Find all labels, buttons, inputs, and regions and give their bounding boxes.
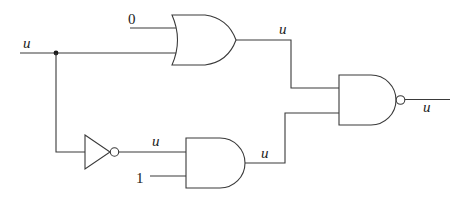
label-input-u: u [23, 35, 31, 51]
or-output-wire [236, 40, 339, 88]
not-bubble [110, 148, 118, 156]
and-output-wire [245, 113, 339, 163]
label-const-1: 1 [136, 170, 144, 186]
and-gate [186, 138, 245, 188]
logic-circuit-diagram: u 0 u u 1 u u [0, 0, 473, 203]
not-gate [85, 135, 110, 169]
nand-gate [339, 75, 396, 125]
or-gate [172, 15, 236, 65]
nand-bubble [396, 96, 405, 105]
circuit-svg: u 0 u u 1 u u [0, 0, 473, 203]
branch-to-inverter-wire [56, 53, 85, 152]
label-nand-out-u: u [423, 99, 431, 115]
label-and-out-u: u [261, 145, 269, 161]
label-const-0: 0 [128, 11, 136, 27]
label-not-out-u: u [152, 133, 160, 149]
label-or-out-u: u [279, 21, 287, 37]
